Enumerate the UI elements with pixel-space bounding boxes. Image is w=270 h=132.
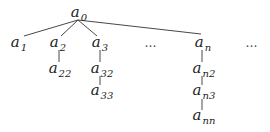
node-an2: an2 xyxy=(193,61,216,79)
node-a32: a32 xyxy=(91,61,114,79)
node-subscript: n3 xyxy=(203,90,216,101)
node-a22: a22 xyxy=(49,61,72,79)
node-subscript: 3 xyxy=(102,42,108,53)
node-label: a xyxy=(91,81,100,99)
edge-a0-an xyxy=(78,20,201,34)
node-an3: an3 xyxy=(193,83,216,101)
node-a0: a0 xyxy=(71,5,87,23)
node-an: an xyxy=(195,35,211,53)
node-subscript: 1 xyxy=(21,42,27,53)
node-subscript: n xyxy=(205,42,211,53)
node-label: a xyxy=(49,59,58,77)
node-a3: a3 xyxy=(92,35,108,53)
node-label: a xyxy=(11,33,20,51)
tree-diagram: a0 a1 a2 a3 an a22 a32 a33 an2 an3 ann …… xyxy=(0,0,270,132)
node-ann: ann xyxy=(193,108,216,126)
node-subscript: 22 xyxy=(59,68,72,79)
node-subscript: 2 xyxy=(60,42,66,53)
node-label: a xyxy=(193,59,202,77)
node-a33: a33 xyxy=(91,83,114,101)
node-label: a xyxy=(50,33,59,51)
ellipsis-middle: … xyxy=(145,36,158,50)
node-label: a xyxy=(195,33,204,51)
node-label: a xyxy=(193,81,202,99)
ellipsis-right: … xyxy=(246,36,259,50)
node-a2: a2 xyxy=(50,35,66,53)
node-subscript: n2 xyxy=(203,68,216,79)
node-subscript: 33 xyxy=(101,90,114,101)
node-subscript: 0 xyxy=(81,12,87,23)
edges-layer xyxy=(0,0,270,132)
node-subscript: 32 xyxy=(101,68,114,79)
node-a1: a1 xyxy=(11,35,27,53)
node-label: a xyxy=(91,59,100,77)
node-label: a xyxy=(71,3,80,21)
node-label: a xyxy=(193,106,202,124)
node-label: a xyxy=(92,33,101,51)
node-subscript: nn xyxy=(203,115,216,126)
